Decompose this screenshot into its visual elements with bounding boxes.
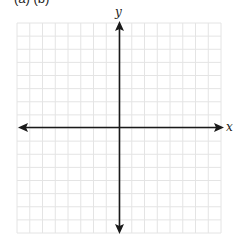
x-axis-label: x [226, 120, 233, 134]
x-axis [18, 123, 224, 132]
coordinate-plane: y x [0, 0, 237, 242]
y-axis-label: y [114, 5, 122, 19]
